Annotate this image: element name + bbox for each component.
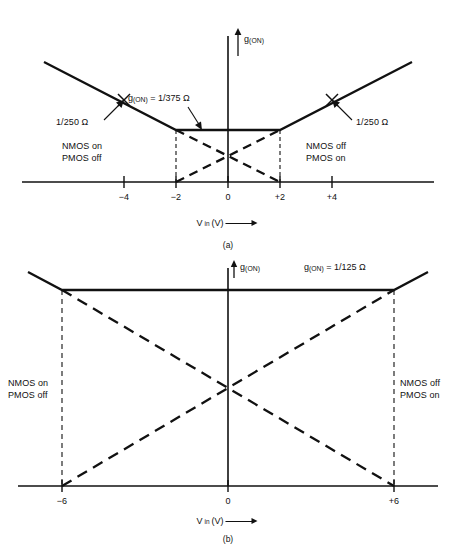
x-axis-label-a-unit: (V) [212,218,224,228]
y-axis-arrow-b [231,260,237,278]
x-tick-label-a-4: +4 [327,192,337,202]
plateau-annotation-a-rhs: = 1/375 Ω [148,93,190,103]
x-axis-label-a: Vin (V) [196,218,259,228]
region-label-left-b: NMOS on PMOS off [8,378,48,401]
x-tick-label-b-2: +6 [389,496,399,506]
x-axis-label-b-unit: (V) [212,516,224,526]
chart-panel-a: g(ON) g(ON) = 1/375 Ω 1/250 Ω 1/250 Ω NM… [0,0,456,256]
x-tick-label-a-1: −2 [171,192,181,202]
region-label-left-a-line1: NMOS on [62,141,102,153]
region-label-right-b-line1: NMOS off [400,378,440,390]
region-label-right-b-line2: PMOS on [400,390,440,402]
region-label-left-b-line2: PMOS off [8,390,48,402]
x-axis-label-b-sub: in [204,518,209,525]
plateau-annotation-a-sub: (ON) [133,96,148,103]
region-label-left-a: NMOS on PMOS off [62,141,102,164]
x-axis-label-b: Vin (V) [196,516,259,526]
region-label-right-a-line2: PMOS on [306,153,346,165]
region-label-right-a-line1: NMOS off [306,141,346,153]
x-axis-direction-arrow-b [226,518,260,525]
x-axis-label-a-v: V [196,218,202,228]
plateau-annotation-a: g(ON) = 1/375 Ω [128,93,190,103]
x-axis-direction-arrow-a [226,220,260,227]
marker-label-left-a: 1/250 Ω [56,117,88,128]
y-axis-label-b: g(ON) [240,262,260,274]
marker-label-right-a: 1/250 Ω [356,117,388,128]
y-axis-symbol-sub-b: (ON) [245,265,260,272]
x-axis-label-b-v: V [196,516,202,526]
y-axis-arrow-a [235,28,242,56]
y-axis-symbol-sub-a: (ON) [249,37,264,44]
x-tick-label-b-1: 0 [225,496,230,506]
x-tick-label-b-0: −6 [57,496,67,506]
region-label-left-a-line2: PMOS off [62,153,102,165]
plateau-annotation-b: g(ON) = 1/125 Ω [304,262,366,272]
plateau-annotation-b-rhs: = 1/125 Ω [324,262,366,272]
y-axis-label-a: g(ON) [244,34,264,46]
plateau-annotation-b-sub: (ON) [309,265,324,272]
x-tick-label-a-3: +2 [275,192,285,202]
region-label-right-b: NMOS off PMOS on [400,378,440,401]
chart-panel-b: g(ON) g(ON) = 1/125 Ω NMOS on PMOS off N… [0,246,456,542]
leader-plateau-a [188,107,202,130]
x-tick-label-a-0: −4 [119,192,129,202]
region-label-right-a: NMOS off PMOS on [306,141,346,164]
leader-right-a [332,100,352,120]
leader-left-a [104,100,124,120]
panel-caption-b: (b) [223,534,233,544]
x-axis-label-a-sub: in [204,220,209,227]
x-tick-label-a-2: 0 [225,192,230,202]
region-label-left-b-line1: NMOS on [8,378,48,390]
